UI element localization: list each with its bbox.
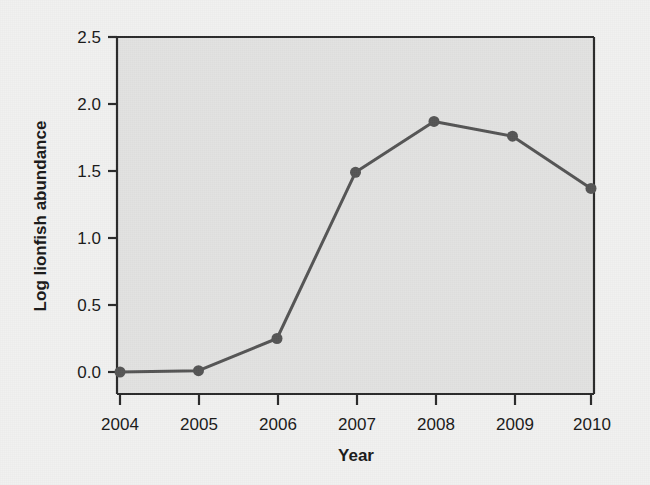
y-tick-label-1-0: 1.0 (77, 229, 101, 248)
data-point-2007 (350, 167, 361, 178)
data-point-2004 (115, 367, 126, 378)
y-tick-label-0-0: 0.0 (77, 363, 101, 382)
chart-figure: 2.5 2.0 1.5 1.0 0.5 0.0 2004 2005 2006 2… (0, 0, 650, 485)
line-chart: 2.5 2.0 1.5 1.0 0.5 0.0 2004 2005 2006 2… (0, 0, 650, 485)
y-tick-label-1-5: 1.5 (77, 162, 101, 181)
data-point-2009 (507, 131, 518, 142)
y-axis-title: Log lionfish abundance (31, 121, 50, 312)
x-axis-tick-labels: 2004 2005 2006 2007 2008 2009 2010 (101, 415, 611, 434)
x-tick-label-2004: 2004 (101, 415, 139, 434)
x-tick-label-2008: 2008 (417, 415, 455, 434)
x-axis-title: Year (338, 446, 374, 465)
x-tick-label-2007: 2007 (338, 415, 376, 434)
x-tick-label-2005: 2005 (180, 415, 218, 434)
data-point-2005 (193, 365, 204, 376)
y-tick-label-2-0: 2.0 (77, 95, 101, 114)
y-tick-label-2-5: 2.5 (77, 28, 101, 47)
x-tick-label-2009: 2009 (496, 415, 534, 434)
x-axis-ticks (120, 394, 591, 405)
y-tick-label-0-5: 0.5 (77, 296, 101, 315)
plot-background (117, 37, 594, 394)
y-axis-tick-labels: 2.5 2.0 1.5 1.0 0.5 0.0 (77, 28, 101, 382)
data-point-2006 (272, 333, 283, 344)
x-tick-label-2006: 2006 (259, 415, 297, 434)
data-point-2008 (429, 116, 440, 127)
y-axis-ticks (108, 37, 117, 372)
x-tick-label-2010: 2010 (573, 415, 611, 434)
data-point-2010 (586, 183, 597, 194)
